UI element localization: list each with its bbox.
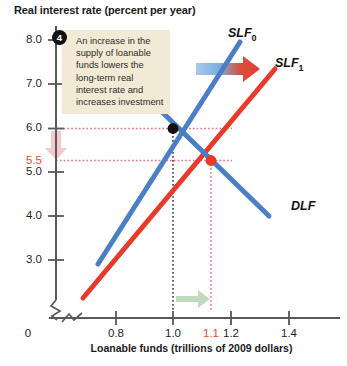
y-tick-label-4-0: 4.0: [12, 209, 42, 221]
curve-label-slf1-text: SLF: [275, 56, 299, 70]
chart-plot-area: [0, 0, 347, 366]
curve-label-slf0-subscript: 0: [252, 33, 257, 43]
y-tick-label-5-0: 5.0: [12, 165, 42, 177]
y-tick-label-8-0: 8.0: [12, 33, 42, 45]
initial-equilibrium-point: [168, 123, 179, 134]
y-tick-label-3-0: 3.0: [12, 253, 42, 265]
curve-label-slf1-subscript: 1: [299, 63, 304, 73]
investment-increase-arrow: [176, 290, 210, 308]
new-equilibrium-point: [206, 155, 217, 166]
x-tick-label-0: 0: [13, 327, 43, 339]
y-tick-label-7-0: 7.0: [12, 77, 42, 89]
x-tick-label-1-2: 1.2: [216, 327, 246, 339]
x-tick-label-0-8: 0.8: [101, 327, 131, 339]
annotation-callout-box: An increase in the supply of loanable fu…: [62, 30, 170, 114]
loanable-funds-market-figure: Real interest rate (percent per year): [0, 0, 347, 366]
annotation-step-badge: 4: [52, 30, 67, 45]
x-axis-title: Loanable funds (trillions of 2009 dollar…: [0, 342, 347, 354]
x-tick-label-1-0: 1.0: [158, 327, 188, 339]
y-tick-label-6-0: 6.0: [12, 121, 42, 133]
curve-label-slf0-text: SLF: [228, 26, 252, 40]
x-tick-label-1-4: 1.4: [274, 327, 304, 339]
curve-label-dlf: DLF: [291, 199, 315, 213]
curve-label-slf1: SLF1: [275, 56, 304, 73]
curve-label-slf0: SLF0: [228, 26, 257, 43]
